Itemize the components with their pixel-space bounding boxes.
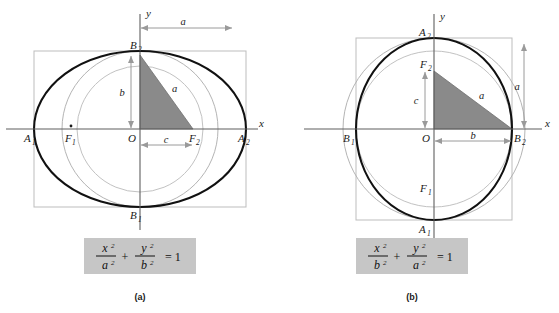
point-F2-base: F (188, 132, 196, 144)
origin-label: O (422, 132, 430, 144)
dimension-a-right-label: a (514, 81, 519, 92)
eq-a-num1-sup: 2 (111, 242, 115, 250)
eq-b-equals: = 1 (437, 250, 453, 264)
panel-b: x y O a c b (280, 0, 559, 313)
arrowhead-up-icon (128, 56, 134, 63)
dimension-a-hypotenuse-label: a (479, 90, 484, 101)
eq-a-num2: y (140, 241, 147, 255)
point-A1-sub: 1 (427, 229, 431, 238)
point-B2-base: B (514, 132, 521, 144)
point-B1-base: B (343, 132, 350, 144)
point-F1-base: F (419, 182, 427, 194)
x-axis-label: x (544, 117, 550, 129)
point-F1-base: F (64, 132, 72, 144)
point-A1-base: A (418, 223, 426, 235)
point-B2-base: B (130, 39, 137, 51)
dimension-c: c (414, 72, 428, 128)
panel-a: x y O a b c (0, 0, 279, 313)
arrowhead-down-icon (128, 121, 134, 128)
eq-b-num1: x (373, 241, 380, 255)
dimension-a-top: a (141, 16, 232, 31)
point-A2-base: A (237, 132, 245, 144)
y-axis-label: y (439, 10, 445, 22)
dimension-c-label: c (414, 95, 419, 106)
dimension-b-label: b (119, 87, 124, 98)
dimension-c: c (141, 134, 192, 148)
dimension-b-label: b (470, 130, 475, 141)
focus-F1-dot (70, 125, 73, 128)
arrowhead-up-icon (521, 44, 527, 51)
point-B1-sub: 1 (138, 215, 142, 224)
dimension-a-top-label: a (180, 16, 185, 27)
y-axis-label: y (145, 7, 151, 19)
point-B2-sub: 2 (138, 45, 142, 54)
point-F1: F 1 (64, 125, 76, 147)
point-F2-sub: 2 (196, 138, 200, 147)
eq-a-equals: = 1 (165, 250, 181, 264)
caption-a: (a) (135, 292, 146, 302)
arrowhead-right-icon (504, 138, 511, 144)
eq-b-den2: a (413, 258, 419, 272)
point-A1-base: A (23, 132, 31, 144)
point-A2-base: A (418, 26, 426, 38)
point-A2-sub: 2 (246, 138, 250, 147)
point-F1-sub: 1 (428, 188, 432, 197)
equation-box-a: x 2 a 2 + y 2 b 2 = 1 (84, 238, 196, 274)
arrowhead-up-icon (422, 72, 428, 79)
dimension-a-right: a (514, 44, 527, 128)
point-F1: F 1 (419, 182, 432, 197)
point-A1-sub: 1 (32, 138, 36, 147)
equation-box-b: x 2 b 2 + y 2 a 2 = 1 (356, 238, 468, 274)
eq-b-num2: y (412, 241, 419, 255)
arrowhead-left-icon (141, 142, 148, 148)
point-F1-sub: 1 (72, 138, 76, 147)
point-A1: A 1 (418, 223, 431, 238)
eq-b-num1-sup: 2 (383, 242, 387, 250)
arrowhead-down-icon (422, 121, 428, 128)
ellipse-figure: x y O a b c (0, 0, 559, 313)
eq-a-plus: + (122, 250, 129, 264)
eq-b-den1-sup: 2 (383, 259, 387, 267)
point-F2-base: F (419, 58, 427, 70)
eq-b-den2-sup: 2 (422, 259, 426, 267)
eq-b-num2-sup: 2 (422, 242, 426, 250)
arrowhead-left-icon (141, 25, 148, 31)
dimension-a-hypotenuse-label: a (172, 83, 177, 94)
arrowhead-down-icon (521, 121, 527, 128)
eq-a-den2-sup: 2 (150, 259, 154, 267)
point-A2-sub: 2 (427, 32, 431, 41)
dimension-b: b (435, 130, 511, 144)
eq-a-den2: b (141, 258, 147, 272)
arrowhead-left-icon (435, 138, 442, 144)
eq-a-den1-sup: 2 (111, 259, 115, 267)
point-B2-sub: 2 (522, 138, 526, 147)
eq-b-den1: b (374, 258, 380, 272)
eq-a-num2-sup: 2 (150, 242, 154, 250)
eq-b-plus: + (394, 250, 401, 264)
origin-label: O (128, 132, 136, 144)
panel-b-diagram: x y O a c b (280, 0, 559, 313)
x-axis-label: x (258, 117, 264, 129)
point-B2: B 2 (514, 132, 526, 147)
point-B1-base: B (130, 209, 137, 221)
eq-a-den1: a (102, 258, 108, 272)
panel-a-diagram: x y O a b c (0, 0, 279, 313)
arrowhead-right-icon (225, 25, 232, 31)
dimension-c-label: c (164, 134, 169, 145)
point-B1-sub: 1 (351, 138, 355, 147)
point-F2-sub: 2 (428, 64, 432, 73)
caption-b: (b) (406, 292, 418, 302)
eq-a-num1: x (101, 241, 108, 255)
shaded-right-triangle (140, 55, 193, 129)
point-F2: F 2 (419, 58, 432, 73)
